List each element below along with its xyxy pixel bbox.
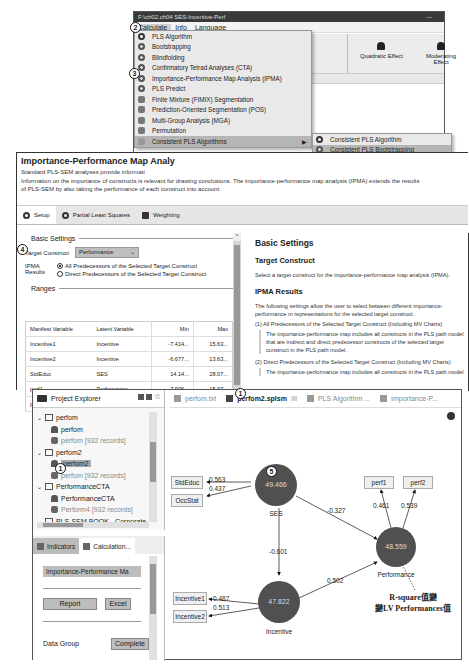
callout-4: 4 (17, 244, 28, 255)
radio-all-predecessors[interactable]: All Predecessors of the Selected Target … (57, 263, 206, 269)
indicator-occstat[interactable]: OccStat (171, 494, 203, 507)
tree-hscrollbar[interactable] (37, 522, 149, 528)
tree-scrollbar[interactable] (149, 412, 157, 522)
tree-data[interactable]: perfom [932 records] (37, 470, 149, 482)
moderating-effect-button[interactable]: Moderating Effect (426, 42, 456, 65)
project-tree: ⌄perfom perfom perfom [932 records] ⌄per… (37, 412, 149, 527)
submenu-item-consistent-pls-algorithm[interactable]: Consistent PLS Algorithm (313, 134, 451, 145)
menu-item-cta[interactable]: Confirmatory Tetrad Analyses (CTA) (135, 63, 311, 74)
ring-icon (23, 212, 30, 219)
menu-item-mga[interactable]: Multi-Group Analysis (MGA) (135, 115, 311, 126)
annotation-note: R-square值變 變LV Performances值 (365, 592, 461, 614)
table-icon (307, 395, 314, 402)
tab-partial-least-squares[interactable]: Partial Least Squares (56, 206, 136, 224)
tree-data[interactable]: Perform4 [932 records] (37, 504, 149, 516)
calc-tabbar: Indicators Calculation... (33, 536, 164, 554)
report-button[interactable]: Report (43, 598, 97, 610)
tab-pls-algorithm[interactable]: PLS Algorithm ... (302, 395, 375, 402)
menu-item-ipma[interactable]: Importance-Performance Map Analysis (IPM… (135, 73, 311, 84)
add-icon[interactable] (138, 394, 144, 400)
calc-scrollbar[interactable] (149, 556, 157, 660)
menu-item-blindfolding[interactable]: Blindfolding (135, 52, 311, 63)
data-group-select[interactable]: Complete (111, 638, 149, 650)
tab-perfom-txt[interactable]: perfom.txt (169, 395, 221, 402)
table-row[interactable]: Incentive1Incentive-7.414...15.63... (26, 337, 233, 352)
weighting-icon (142, 212, 149, 219)
minimize-button[interactable]: — (426, 12, 432, 22)
basic-settings-group: Basic Settings (17, 235, 233, 242)
scrollbar-thumb[interactable] (150, 442, 156, 482)
menu-item-bootstrapping[interactable]: Bootstrapping (135, 42, 311, 53)
scrollbar-thumb[interactable] (43, 523, 83, 527)
callout-2: 2 (130, 22, 141, 33)
chevron-down-icon[interactable]: ⌄ (37, 483, 45, 490)
tree-model-selected[interactable]: perfom2 (37, 458, 149, 470)
person-icon (377, 42, 385, 50)
path-model-canvas: StdEduc OccStat Incentive1 Incentive2 pe… (169, 410, 463, 661)
tree-data[interactable]: perfom [932 records] (37, 435, 149, 447)
menu-item-pls-algorithm[interactable]: PLS Algorithm (135, 31, 311, 42)
file-icon (174, 395, 181, 402)
latent-variable-incentive[interactable]: 47.822 (258, 581, 300, 623)
ipma-results-row: IPMA Results All Predecessors of the Sel… (17, 263, 233, 277)
scroll-up-icon[interactable]: ^ (233, 233, 241, 241)
tree-model[interactable]: perfom (37, 424, 149, 436)
chevron-down-icon[interactable]: ⌄ (37, 449, 45, 456)
indicator-incentive1[interactable]: Incentive1 (173, 592, 207, 605)
settings-tabbar: Setup Partial Least Squares Weighting (17, 205, 468, 225)
latent-variable-performance[interactable]: 48.559 (376, 527, 416, 567)
indicator-stdeduc[interactable]: StdEduc (171, 476, 203, 489)
tab-setup[interactable]: Setup (17, 206, 56, 224)
close-icon[interactable]: ☒ (291, 395, 297, 403)
menu-item-pos[interactable]: Prediction-Oriented Segmentation (POS) (135, 105, 311, 116)
folder-icon (37, 395, 47, 402)
loading-perf2: 0.539 (401, 502, 417, 509)
table-row[interactable]: StdEducSES14.14...28.07... (26, 367, 233, 382)
ring-icon (138, 33, 145, 40)
radio-button-checked[interactable] (57, 263, 63, 269)
excel-button[interactable]: Excel (105, 598, 131, 610)
project-explorer-actions: ☆ (138, 394, 160, 400)
table-icon (83, 543, 90, 550)
settings-scrollbar[interactable]: ^ (233, 233, 241, 391)
radio-direct-predecessors[interactable]: Direct Predecessors of the Selected Targ… (57, 271, 206, 277)
tab-perfom2-splsm[interactable]: perfom2.splsm☒ (221, 395, 302, 403)
radio-button[interactable] (57, 271, 63, 277)
callout-1: 1 (235, 388, 246, 399)
lv-label-performance: Performance (369, 571, 423, 578)
submenu-arrow-icon: ▶ (302, 138, 307, 145)
tree-project[interactable]: ⌄perfom2 (37, 447, 149, 459)
tree-project[interactable]: ⌄perfom (37, 412, 149, 424)
quadratic-effect-button[interactable]: Quadratic Effect (360, 42, 403, 59)
star-icon[interactable]: ☆ (154, 394, 160, 400)
window-title-bar: F:\ch02,ch04 SES-Incentive-Perf — (134, 12, 444, 22)
tree-model[interactable]: PerformanceCTA (37, 493, 149, 505)
project-explorer: Project Explorer ☆ ⌄perfom perfom perfom… (33, 390, 165, 530)
menu-item-fimix[interactable]: Finite Mixture (FIMIX) Segmentation (135, 94, 311, 105)
target-construct-row: Target Construct Performance⌄ (17, 247, 233, 258)
tab-calculation[interactable]: Calculation... (79, 538, 135, 554)
scrollbar-thumb[interactable] (234, 245, 240, 385)
calculation-type-field[interactable]: Importance-Performance Ma (43, 566, 141, 577)
tree-project[interactable]: ⌄PerformanceCTA (37, 481, 149, 493)
divider (43, 621, 141, 622)
menu-item-permutation[interactable]: Permutation (135, 126, 311, 137)
chevron-down-icon[interactable]: ⌄ (37, 414, 45, 421)
person-icon (437, 42, 445, 50)
indicator-perf2[interactable]: perf2 (403, 476, 433, 489)
menu-item-pls-predict[interactable]: PLS Predict (135, 84, 311, 95)
target-construct-select[interactable]: Performance⌄ (75, 247, 139, 258)
tab-importance-performance[interactable]: Importance-P... (375, 395, 443, 402)
ring-icon (316, 136, 323, 143)
lv-label-incentive: Incentive (253, 628, 305, 635)
minimize-icon[interactable] (146, 394, 152, 400)
indicator-incentive2[interactable]: Incentive2 (173, 610, 207, 623)
tab-indicators[interactable]: Indicators (33, 538, 79, 554)
scrollbar-thumb[interactable] (150, 564, 156, 614)
menu-item-consistent-pls-algorithms[interactable]: Consistent PLS Algorithms▶ (135, 136, 311, 147)
tab-weighting[interactable]: Weighting (136, 206, 186, 224)
help-quote: The importance-performance map includes … (259, 330, 468, 354)
indicator-perf1[interactable]: perf1 (364, 476, 394, 489)
dialog-title: Importance-Performance Map Analy (17, 153, 468, 168)
table-row[interactable]: Incentive2Incentive-6.677...13.63... (26, 352, 233, 367)
